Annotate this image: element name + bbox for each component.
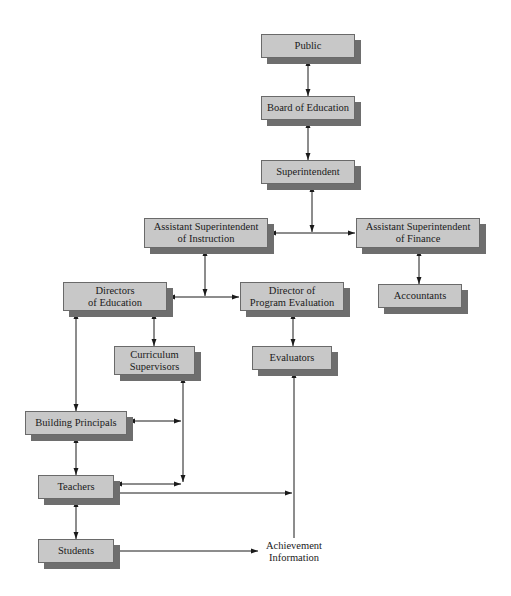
node-label-line: Teachers (57, 481, 94, 493)
org-chart-diagram: PublicBoard of EducationSuperintendentAs… (0, 0, 511, 596)
node-label-line: Program Evaluation (250, 297, 334, 309)
node-teachers: Teachers (38, 475, 114, 499)
node-label-line: Public (295, 40, 322, 52)
node-label-line: Assistant Superintendent (154, 221, 259, 233)
node-label-line: Curriculum (130, 349, 178, 361)
node-students: Students (38, 539, 114, 563)
node-label-line: Superintendent (276, 166, 340, 178)
node-label-line: Evaluators (270, 352, 315, 364)
label-line: Information (260, 552, 328, 564)
node-public: Public (261, 34, 355, 58)
node-curriculum-supervisors: CurriculumSupervisors (114, 346, 195, 375)
node-directors-education: Directorsof Education (63, 282, 167, 311)
node-label-line: of Education (88, 297, 142, 309)
node-director-program-evaluation: Director ofProgram Evaluation (240, 282, 344, 311)
node-label-line: of Finance (396, 233, 441, 245)
node-label-line: Building Principals (35, 417, 116, 429)
node-accountants: Accountants (378, 284, 462, 308)
node-asst-instruction: Assistant Superintendentof Instruction (144, 218, 268, 248)
node-label-line: Accountants (394, 290, 447, 302)
node-evaluators: Evaluators (252, 346, 332, 370)
node-label-line: Assistant Superintendent (366, 221, 471, 233)
node-superintendent: Superintendent (261, 160, 355, 184)
node-label-line: Board of Education (267, 102, 349, 114)
label-line: Achievement (260, 540, 328, 552)
node-label-line: Students (58, 545, 94, 557)
node-building-principals: Building Principals (25, 411, 127, 435)
node-asst-finance: Assistant Superintendentof Finance (356, 218, 480, 248)
node-label-line: Directors (95, 285, 134, 297)
node-label-line: of Instruction (178, 233, 235, 245)
node-label-line: Supervisors (130, 361, 180, 373)
node-label-line: Director of (269, 285, 315, 297)
node-board: Board of Education (261, 96, 355, 120)
label-achievement-information: AchievementInformation (260, 540, 328, 564)
